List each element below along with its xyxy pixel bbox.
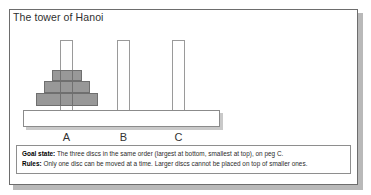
goal-state-line: Goal state: The three discs in the same … — [22, 149, 345, 159]
rules-label: Rules: — [22, 160, 42, 167]
instructions-box: Goal state: The three discs in the same … — [16, 145, 351, 174]
peg-c[interactable] — [172, 40, 185, 121]
disc-small[interactable] — [52, 70, 82, 81]
peg-label-a: A — [55, 131, 79, 143]
disc-medium[interactable] — [44, 81, 90, 93]
peg-label-b: B — [112, 131, 136, 143]
goal-state-label: Goal state: — [22, 150, 55, 157]
goal-state-text: The three discs in the same order (large… — [55, 150, 283, 157]
peg-b[interactable] — [117, 40, 130, 121]
tower-of-hanoi-figure: The tower of Hanoi A B C Goal state: The… — [0, 0, 371, 195]
rules-text: Only one disc can be moved at a time. La… — [42, 160, 308, 167]
base-bar — [23, 110, 220, 127]
peg-label-c: C — [167, 131, 191, 143]
disc-large[interactable] — [36, 93, 98, 106]
rules-line: Rules: Only one disc can be moved at a t… — [22, 159, 345, 169]
puzzle-stage: A B C — [9, 9, 358, 144]
